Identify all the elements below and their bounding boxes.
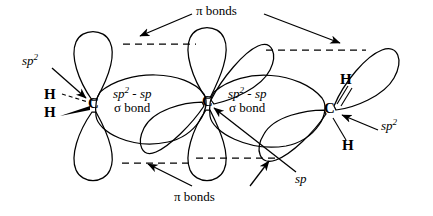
pi-bonds-label-bottom: π bonds [174,190,215,204]
arrow-sp2-left-leader [52,68,86,98]
hybridization-label-sp2-right: sp2 [381,118,397,133]
p-lobe-left-up-orbital [74,32,112,101]
arrow-pi-bottom-left-leader [148,164,192,186]
bond-h-right-upper-line-2 [341,88,352,106]
sigma-bond-label-right-line1: sp2 - sp [228,86,266,101]
sp2-right-exponent: 2 [393,117,398,127]
sigma-bond-label-left-line1: sp2 - sp [113,86,151,101]
arrow-pi-bottom-right-leader [250,161,269,186]
sigma-bond-label-right-line2: σ bond [228,101,266,115]
sigma-bond-label-left: sp2 - sp σ bond [113,86,151,115]
bond-h-left-lower-wedge [60,106,90,116]
sp2-left-exponent: 2 [34,52,39,62]
arrow-pi-top-right-leader [264,14,340,43]
p-lobe-left-down-orbital [74,112,112,181]
sigma-bond-label-right: sp2 - sp σ bond [228,86,266,115]
atom-label-c-right: C [324,101,335,117]
atom-label-c-middle: C [202,94,213,110]
atom-label-h-right-upper: H [340,72,352,88]
atom-label-h-left-upper: H [44,87,56,103]
hybridization-label-sp2-left: sp2 [22,53,38,68]
orbital-hybridization-diagram: C C C H H H H sp2 sp2 sp sp2 - sp σ bond… [0,0,433,216]
sigma-bond-label-left-line2: σ bond [113,101,151,115]
sp2-right-base: sp [381,118,393,133]
atom-label-h-left-lower: H [44,105,56,121]
orbital-diagram-svg [0,0,433,216]
pi-bonds-label-top: π bonds [196,4,237,18]
atom-label-c-left: C [88,96,99,112]
sp2-left-base: sp [22,53,34,68]
bond-h-left-upper-dashed [62,94,88,102]
arrow-sp2-right-leader [342,115,378,130]
arrow-pi-top-left-leader [140,14,192,36]
hybridization-label-sp-center: sp [295,172,307,186]
atom-label-h-right-lower: H [342,138,354,154]
sp-lobe-right-lower-orbital [259,110,326,161]
